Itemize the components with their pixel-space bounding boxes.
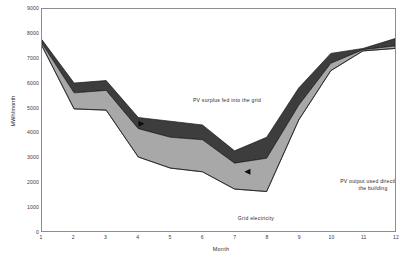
y-axis-title: MWh/month [10, 76, 16, 146]
x-axis-tick: 10 [328, 234, 334, 240]
y-axis-tick: 1000 [3, 204, 39, 210]
x-axis-tick-labels: 123456789101112 [41, 234, 396, 244]
chart-figure: 0100020003000400050006000700080009000 MW… [0, 0, 406, 262]
y-axis-tick: 7000 [3, 55, 39, 61]
y-axis-tick: 4000 [3, 129, 39, 135]
grid-electricity-annotation: Grid electricity [214, 215, 298, 222]
y-axis-tick: 5000 [3, 105, 39, 111]
y-axis-tick: 3000 [3, 154, 39, 160]
band-pv-direct [42, 44, 395, 192]
x-axis-tick: 11 [361, 234, 367, 240]
pv-direct-annotation: PV output used directly by the building [325, 178, 396, 191]
y-axis-tick: 9000 [3, 5, 39, 11]
area-chart-svg [42, 9, 395, 231]
x-axis-title-text: Month [213, 246, 229, 252]
x-axis-title: Month [0, 246, 406, 252]
x-axis-tick: 12 [393, 234, 399, 240]
x-axis-tick: 3 [104, 234, 107, 240]
x-axis-tick: 9 [298, 234, 301, 240]
y-axis-tick: 2000 [3, 179, 39, 185]
y-axis-tick-labels: 0100020003000400050006000700080009000 [0, 8, 39, 232]
x-axis-tick: 1 [40, 234, 43, 240]
y-axis-tick: 0 [3, 229, 39, 235]
x-axis-tick: 2 [72, 234, 75, 240]
x-axis-tick: 5 [169, 234, 172, 240]
y-axis-tick: 6000 [3, 80, 39, 86]
x-axis-tick: 7 [233, 234, 236, 240]
x-axis-tick: 4 [136, 234, 139, 240]
x-axis-tick: 6 [201, 234, 204, 240]
pv-surplus-annotation: PV surplus fed into the grid [181, 97, 273, 104]
x-axis-tick: 8 [265, 234, 268, 240]
y-axis-tick: 8000 [3, 30, 39, 36]
plot-area: PV surplus fed into the grid PV output u… [41, 8, 396, 232]
